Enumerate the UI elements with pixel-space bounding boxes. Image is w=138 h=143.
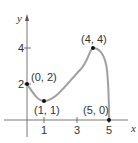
point-5-0 [107,118,111,122]
x-tick-label-5: 5 [106,124,112,136]
point-label-0-2: (0, 2) [31,71,57,83]
y-tick-label-4: 4 [18,42,24,54]
x-tick-label-3: 3 [74,124,80,136]
point-1-1 [42,99,46,103]
function-graph: y x 1 3 5 4 2 (0, 2) (1, 1) (4, 4) (5, 0… [0,0,138,143]
point-label-5-0: (5, 0) [83,104,109,116]
point-label-1-1: (1, 1) [34,104,60,116]
x-tick-label-1: 1 [41,124,47,136]
y-axis-label: y [16,12,22,24]
point-4-4 [91,46,95,50]
y-tick-label-2: 2 [18,78,24,90]
x-axis-label: x [130,122,136,134]
y-axis-arrow-icon [25,14,29,21]
point-label-4-4: (4, 4) [81,33,107,45]
point-0-2 [25,82,29,86]
